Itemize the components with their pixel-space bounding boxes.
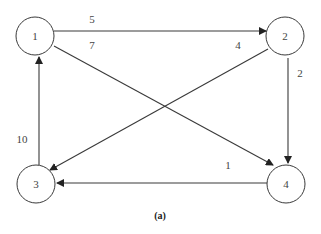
edge-1-to-2: 5 [54,13,266,31]
nodes: 1234 [16,17,305,203]
edge-weight-label: 1 [225,159,231,171]
edge-weight-label: 7 [89,39,95,51]
edge-weight-label: 2 [297,67,303,79]
node-label: 2 [282,30,288,42]
edge-2-to-4: 2 [288,58,303,163]
graph-diagram: 5742101 1234 (a) [0,0,321,234]
edges: 5742101 [17,13,303,183]
node-label: 4 [283,178,289,190]
edge-weight-label: 10 [17,133,29,145]
node-label: 1 [32,30,38,42]
node-3: 3 [17,165,55,203]
edge-weight-label: 4 [235,39,241,51]
figure-caption: (a) [154,210,166,222]
edge-arrow-line [50,49,268,170]
node-4: 4 [267,165,305,203]
edge-weight-label: 5 [89,13,95,25]
node-1: 1 [16,17,54,55]
edge-1-to-4: 7 [54,39,273,165]
edge-2-to-3: 4 [50,39,268,170]
edge-3-to-1: 10 [17,57,40,165]
edge-4-to-3: 1 [57,159,267,183]
node-2: 2 [266,17,304,55]
node-label: 3 [33,178,39,190]
